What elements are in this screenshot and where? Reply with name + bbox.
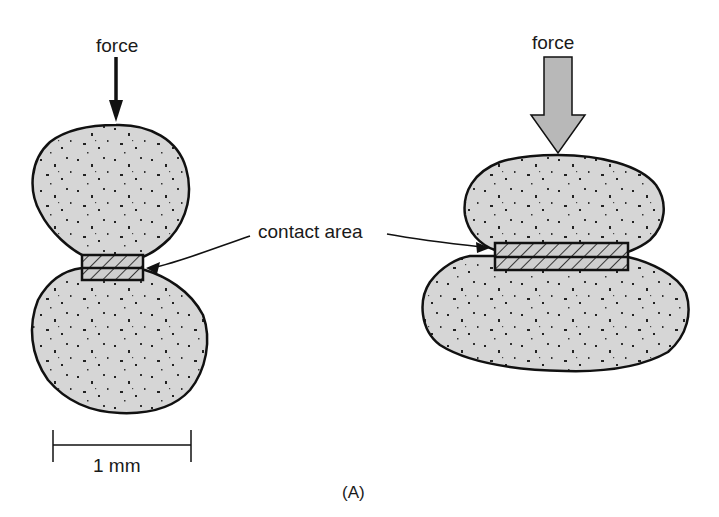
left-contact-area (82, 255, 143, 280)
right-contact-area (495, 243, 628, 270)
right-upper-particle (465, 155, 664, 252)
right-force-arrow-icon (531, 57, 585, 153)
right-lower-particle (423, 256, 689, 371)
contact-area-label: contact area (258, 222, 363, 241)
left-lower-particle (32, 268, 207, 413)
left-force-arrow-icon (109, 57, 123, 122)
left-upper-particle (33, 125, 189, 258)
right-leader-arrow-icon (387, 234, 482, 247)
right-force-label: force (532, 33, 574, 52)
right-panel (423, 57, 689, 371)
left-force-label: force (96, 36, 138, 55)
scale-bar-label: 1 mm (93, 456, 141, 475)
contact-area-diagram (0, 0, 719, 517)
panel-label: (A) (342, 484, 365, 501)
